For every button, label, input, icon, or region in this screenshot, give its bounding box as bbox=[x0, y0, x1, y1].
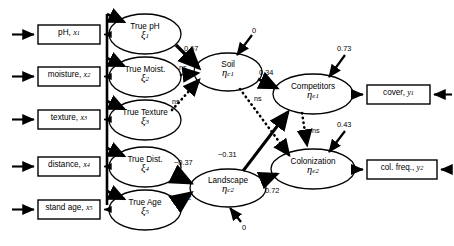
indicator-box-moisture bbox=[38, 67, 100, 86]
indicator-box-ph bbox=[38, 25, 100, 44]
path-soil-to-competitors bbox=[258, 79, 277, 88]
path-true-age-to-landscape bbox=[177, 193, 191, 203]
disturbance-arrow-landscape bbox=[230, 208, 241, 222]
outcome-box-cover bbox=[367, 85, 430, 104]
disturbance-arrow-soil bbox=[237, 35, 252, 55]
trunk-branch-to-true-ph bbox=[107, 14, 124, 22]
ellipse-competitors bbox=[273, 74, 353, 114]
path-competitors-to-colonization bbox=[302, 113, 307, 145]
ellipse-colonization bbox=[271, 149, 355, 189]
ellipse-landscape bbox=[190, 169, 266, 207]
ellipse-soil bbox=[194, 53, 262, 91]
indicator-box-distance bbox=[38, 157, 100, 176]
disturbance-arrow-competitors bbox=[329, 55, 345, 77]
indicator-error-arrows bbox=[12, 35, 34, 210]
indicator-box-standage bbox=[38, 200, 100, 219]
outcome-boxes bbox=[367, 85, 437, 179]
diagram-canvas bbox=[0, 0, 454, 246]
outcome-arrows bbox=[354, 95, 363, 170]
outcome-box-colfreq bbox=[367, 160, 437, 179]
path-true-ph-to-soil bbox=[176, 45, 199, 68]
indicator-boxes bbox=[38, 25, 100, 219]
sem-path-diagram: pH, x1 moisture, x2 texture, x3 distance… bbox=[0, 0, 454, 246]
outcome-error-arrows bbox=[434, 95, 452, 170]
path-true-dist-to-landscape bbox=[177, 176, 191, 183]
disturbance-arrow-colonization bbox=[329, 131, 345, 152]
indicator-box-texture bbox=[38, 110, 100, 129]
